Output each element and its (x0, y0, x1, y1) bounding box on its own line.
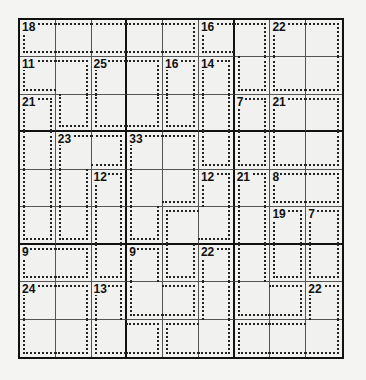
cage-outline (23, 319, 56, 354)
grid-cell[interactable] (20, 132, 56, 169)
cage-sum-label: 16 (201, 21, 215, 33)
grid-cell[interactable]: 21 (270, 95, 306, 132)
grid-cell[interactable]: 16 (199, 20, 235, 57)
grid-cell[interactable]: 18 (20, 20, 56, 57)
grid-cell[interactable] (127, 207, 163, 244)
grid-cell[interactable] (163, 320, 199, 357)
grid-cell[interactable] (127, 95, 163, 132)
grid-cell[interactable] (56, 245, 92, 282)
grid-cell[interactable] (56, 282, 92, 319)
grid-cell[interactable]: 12 (92, 170, 128, 207)
cage-outline (238, 131, 267, 165)
grid-cell[interactable] (127, 20, 163, 57)
grid-cell[interactable] (270, 282, 306, 319)
grid-cell[interactable] (127, 282, 163, 319)
grid-cell[interactable] (56, 170, 92, 207)
grid-cell[interactable]: 7 (306, 207, 342, 244)
grid-cell[interactable] (306, 170, 342, 207)
cage-outline (130, 281, 163, 315)
grid-cell[interactable]: 24 (20, 282, 56, 319)
cage-outline (55, 248, 88, 278)
cage-sum-label: 8 (272, 171, 280, 183)
grid-cell[interactable] (270, 245, 306, 282)
grid-cell[interactable]: 23 (56, 132, 92, 169)
cage-outline (55, 60, 88, 94)
grid-cell[interactable] (199, 320, 235, 357)
grid-cell[interactable] (270, 57, 306, 94)
grid-cell[interactable] (56, 320, 92, 357)
grid-cell[interactable]: 33 (127, 132, 163, 169)
cage-outline (162, 23, 195, 53)
grid-cell[interactable]: 12 (199, 170, 235, 207)
grid-cell[interactable] (306, 132, 342, 169)
grid-cell[interactable] (56, 95, 92, 132)
grid-cell[interactable] (270, 132, 306, 169)
grid-cell[interactable]: 11 (20, 57, 56, 94)
grid-cell[interactable] (235, 20, 271, 57)
grid-cell[interactable] (306, 57, 342, 94)
grid-cell[interactable] (56, 20, 92, 57)
grid-cell[interactable] (20, 320, 56, 357)
grid-cell[interactable] (270, 320, 306, 357)
grid-cell[interactable] (92, 95, 128, 132)
grid-cell[interactable]: 22 (199, 245, 235, 282)
grid-cell[interactable] (163, 207, 199, 244)
grid-cell[interactable] (92, 320, 128, 357)
grid-cell[interactable] (306, 20, 342, 57)
grid-cell[interactable] (235, 245, 271, 282)
cage-outline (238, 206, 267, 243)
grid-cell[interactable]: 25 (92, 57, 128, 94)
grid-cell[interactable]: 21 (20, 95, 56, 132)
grid-cell[interactable] (235, 57, 271, 94)
grid-cell[interactable] (163, 95, 199, 132)
grid-cell[interactable] (199, 282, 235, 319)
grid-cell[interactable]: 9 (127, 245, 163, 282)
grid-cell[interactable]: 13 (92, 282, 128, 319)
grid-cell[interactable] (92, 207, 128, 244)
killer-sudoku-grid: 1816221125161421721233312122181979922241… (18, 18, 344, 359)
grid-cell[interactable] (235, 320, 271, 357)
grid-cell[interactable] (163, 245, 199, 282)
grid-cell[interactable] (199, 95, 235, 132)
grid-cell[interactable] (199, 132, 235, 169)
grid-cell[interactable] (20, 207, 56, 244)
grid-cell[interactable] (306, 245, 342, 282)
grid-cell[interactable] (235, 132, 271, 169)
cage-outline (273, 244, 302, 278)
grid-cell[interactable] (92, 20, 128, 57)
grid-cell[interactable]: 22 (270, 20, 306, 57)
grid-cell[interactable] (235, 282, 271, 319)
grid-cell[interactable] (163, 170, 199, 207)
grid-cell[interactable]: 14 (199, 57, 235, 94)
cage-outline (91, 135, 123, 165)
cage-outline (95, 206, 123, 243)
grid-cell[interactable]: 22 (306, 282, 342, 319)
grid-cell[interactable] (127, 57, 163, 94)
cage-outline (238, 56, 267, 90)
grid-cell[interactable] (235, 207, 271, 244)
cage-outline (95, 319, 127, 354)
grid-cell[interactable]: 16 (163, 57, 199, 94)
grid-cell[interactable]: 7 (235, 95, 271, 132)
cage-outline (95, 244, 123, 278)
grid-cell[interactable]: 19 (270, 207, 306, 244)
grid-cell[interactable] (163, 132, 199, 169)
grid-cell[interactable] (127, 170, 163, 207)
grid-cell[interactable] (92, 245, 128, 282)
cage-outline (305, 23, 339, 57)
grid-cell[interactable] (56, 57, 92, 94)
grid-cell[interactable]: 9 (20, 245, 56, 282)
grid-cell[interactable]: 8 (270, 170, 306, 207)
cage-sum-label: 33 (129, 133, 143, 145)
grid-cell[interactable] (127, 320, 163, 357)
grid-cell[interactable] (306, 95, 342, 132)
cage-outline (238, 281, 271, 315)
grid-cell[interactable] (199, 207, 235, 244)
grid-cell[interactable]: 21 (235, 170, 271, 207)
grid-cell[interactable] (163, 282, 199, 319)
grid-cell[interactable] (306, 320, 342, 357)
grid-cell[interactable] (56, 207, 92, 244)
grid-cell[interactable] (20, 170, 56, 207)
grid-cell[interactable] (163, 20, 199, 57)
grid-cell[interactable] (92, 132, 128, 169)
